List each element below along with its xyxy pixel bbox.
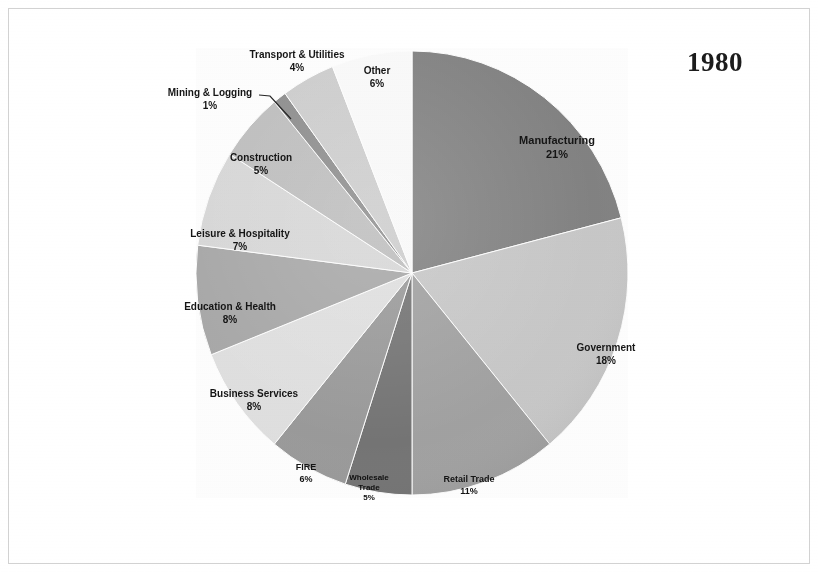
slice-label-government: Government 18% <box>558 342 654 368</box>
slice-label-wholesale-trade: Wholesale Trade 5% <box>341 473 397 504</box>
slice-label-name: Retail Trade <box>423 474 515 486</box>
slice-label-fire: FIRE 6% <box>283 462 329 485</box>
slice-label-leisure-hospitality: Leisure & Hospitality 7% <box>175 228 305 254</box>
slice-label-manufacturing: Manufacturing 21% <box>497 133 617 161</box>
slice-label-name: Transport & Utilities <box>228 49 366 62</box>
slice-label-name: Construction <box>215 152 307 165</box>
slice-label-construction: Construction 5% <box>215 152 307 178</box>
slice-label-name: Mining & Logging <box>155 87 265 100</box>
pie-chart-svg <box>196 48 628 498</box>
slice-label-other: Other 6% <box>347 65 407 91</box>
slice-label-value: 8% <box>169 314 291 327</box>
slice-label-value: 5% <box>215 165 307 178</box>
slice-label-value: 4% <box>228 62 366 75</box>
slice-label-name: FIRE <box>283 462 329 474</box>
slice-label-value: 8% <box>202 401 306 414</box>
slice-label-name: Business Services <box>202 388 306 401</box>
slice-label-name: Education & Health <box>169 301 291 314</box>
slice-label-name: Manufacturing <box>497 133 617 147</box>
slice-label-value: 7% <box>175 241 305 254</box>
slice-label-value: 1% <box>155 100 265 113</box>
slice-label-value: 21% <box>497 147 617 161</box>
page-title: 1980 <box>650 47 780 78</box>
slice-label-value: 6% <box>283 474 329 486</box>
chart-page: 1980 Manufacturing 21% Government 18% R <box>0 0 818 572</box>
slice-label-name: Other <box>347 65 407 78</box>
pie-shading-overlay <box>196 51 628 495</box>
slice-label-retail-trade: Retail Trade 11% <box>423 474 515 497</box>
slice-label-value: 6% <box>347 78 407 91</box>
slice-label-business-services: Business Services 8% <box>202 388 306 414</box>
slice-label-name: Government <box>558 342 654 355</box>
slice-label-transport-utilities: Transport & Utilities 4% <box>228 49 366 75</box>
slice-label-value: 5% <box>341 493 397 503</box>
slice-label-value: 11% <box>423 486 515 498</box>
slice-label-name: Wholesale Trade <box>341 473 397 493</box>
pie-chart <box>196 48 628 498</box>
slice-label-mining-logging: Mining & Logging 1% <box>155 87 265 113</box>
slice-label-value: 18% <box>558 355 654 368</box>
slice-label-education-health: Education & Health 8% <box>169 301 291 327</box>
slice-label-name: Leisure & Hospitality <box>175 228 305 241</box>
